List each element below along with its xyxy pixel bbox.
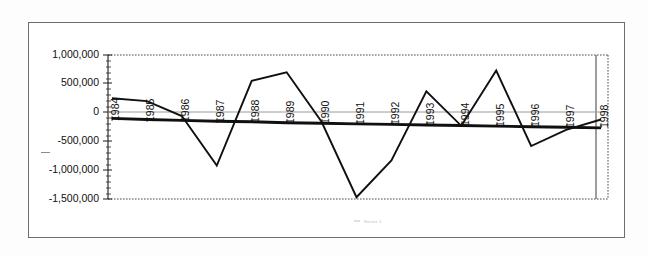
y-tick-label-0: 0 [93,105,99,117]
x-tick-label-1987: 1987 [214,99,226,123]
y-tick-label-1000000: 1,000,000 [52,48,99,60]
x-tick-label-1998: 1998 [598,104,610,128]
x-tick-label-1991: 1991 [354,101,366,125]
y-tick-label--1500000: -1,500,000 [49,192,99,204]
chart-figure: 1,000,000 500,000 0 -500,000 -1,000,000 … [0,0,648,255]
chart-legend: Series 1 [354,219,382,224]
y-tick-label--500000: -500,000 [58,134,100,146]
data-series-main [112,71,601,198]
y-tick-label--1000000: -1,000,000 [49,163,99,175]
x-tick-label-1993: 1993 [424,102,436,126]
x-tick-label-1986: 1986 [179,98,191,122]
y-tick-label-500000: 500,000 [61,76,99,88]
chart-plot-area: 1,000,000 500,000 0 -500,000 -1,000,000 … [0,0,648,255]
x-tick-label-1996: 1996 [529,103,541,127]
legend-entry-label: Series 1 [364,219,382,224]
x-tick-label-1989: 1989 [284,100,296,124]
x-tick-label-1995: 1995 [494,103,506,127]
x-tick-label-1988: 1988 [249,99,261,123]
x-tick-label-1992: 1992 [389,101,401,125]
x-tick-label-1997: 1997 [564,104,576,128]
